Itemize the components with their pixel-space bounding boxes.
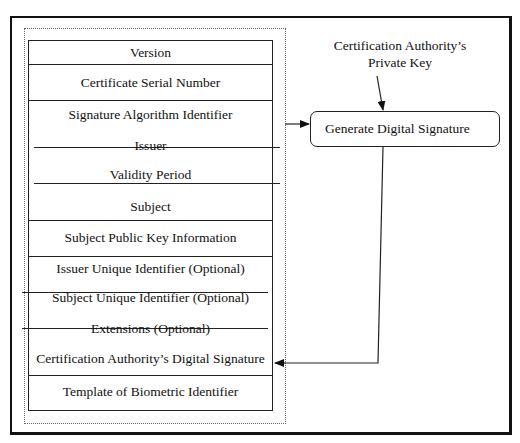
arrow-generate-to-signature xyxy=(275,147,383,363)
arrow-key-to-generate xyxy=(377,76,383,110)
connector-arrows xyxy=(0,0,520,443)
